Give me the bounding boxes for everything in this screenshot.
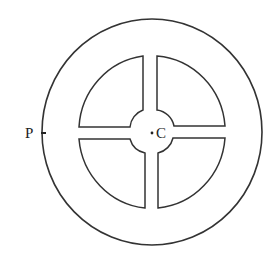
label-p: P [25, 125, 33, 141]
label-c: C [156, 125, 166, 141]
cutout-top-right [157, 56, 225, 126]
cutout-bottom-left [79, 139, 145, 208]
cutout-bottom-right [158, 138, 225, 208]
cutout-top-left [79, 56, 143, 127]
center-point [151, 132, 154, 135]
wheel-diagram: P C [0, 0, 277, 270]
